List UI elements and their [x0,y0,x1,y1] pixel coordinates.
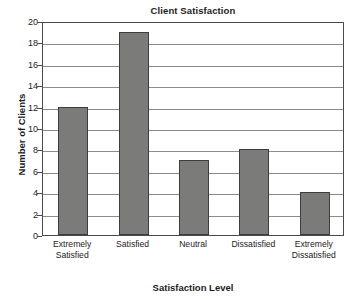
x-axis-tick-labels: ExtremelySatisfiedSatisfiedNeutralDissat… [42,239,344,271]
bar[interactable] [300,192,330,235]
x-tick-label-line: Extremely [295,239,333,249]
chart-title: Client Satisfaction [42,5,344,16]
x-tick-label-line: Dissatisfied [277,250,351,261]
bar-series [43,23,343,235]
bar[interactable] [119,32,149,235]
bar[interactable] [239,149,269,235]
plot-area [42,22,344,236]
y-tick-mark [37,236,42,237]
chart-figure: Client Satisfaction 02468101214161820 Nu… [0,0,354,299]
x-tick-label-line: Neutral [179,239,207,249]
x-axis-title: Satisfaction Level [42,282,344,293]
bar[interactable] [58,107,88,235]
y-tick-label: 0 [2,231,38,241]
bar[interactable] [179,160,209,235]
x-tick-label-line: Extremely [53,239,91,249]
x-tick-label-line: Dissatisfied [231,239,275,249]
x-tick-label-line: Satisfied [35,250,109,261]
x-tick-label: ExtremelyDissatisfied [277,239,351,261]
y-axis-title: Number of Clients [16,55,27,215]
y-tick-label: 20 [2,17,38,27]
x-tick-label-line: Satisfied [116,239,149,249]
y-tick-label: 18 [2,38,38,48]
